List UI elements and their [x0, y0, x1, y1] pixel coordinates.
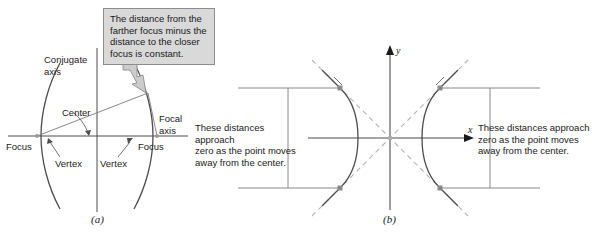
conjugate-axis-label: Conjugate axis — [44, 54, 87, 77]
y-axis-label: y — [396, 45, 400, 56]
callout-box: The distance from the farther focus minu… — [103, 8, 215, 65]
focus-left-label: Focus — [6, 141, 32, 153]
callout-block-arrow — [123, 61, 146, 93]
x-axis-label: x — [468, 124, 472, 135]
focus-right-label: Focus — [138, 141, 164, 153]
center-label: Center — [62, 107, 91, 119]
vertex-right-label: Vertex — [100, 158, 127, 170]
vertex-left-leader-arrow — [47, 138, 53, 144]
vertex-left-label: Vertex — [55, 158, 82, 170]
vertex-left-leader-line — [50, 142, 60, 157]
panel-a: The distance from the farther focus minu… — [0, 0, 300, 237]
focus-left-dot — [35, 134, 39, 138]
vertex-right-leader-arrow — [127, 138, 133, 144]
annotation-left: These distances approach zero as the poi… — [195, 122, 305, 168]
focal-radius-far — [37, 93, 148, 136]
right-angle-tick-upper-right — [436, 77, 444, 85]
hyperbola-figure: The distance from the farther focus minu… — [0, 0, 607, 237]
y-axis-arrowhead — [386, 45, 394, 55]
panel-b-graphic — [300, 0, 607, 237]
focal-axis-label: Focal axis — [159, 113, 182, 136]
x-axis-arrowhead — [464, 134, 474, 142]
vertex-right-leader-line — [118, 142, 130, 157]
center-leader-arrow — [85, 130, 91, 136]
panel-b-caption: (b) — [383, 213, 396, 225]
panel-b: y x These distances approach zero as the… — [300, 0, 607, 237]
annotation-right: These distances approach zero as the poi… — [478, 122, 596, 157]
panel-a-caption: (a) — [91, 213, 104, 225]
